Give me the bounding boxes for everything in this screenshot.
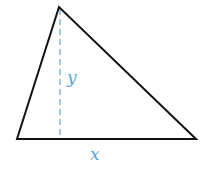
triangle-outline xyxy=(17,7,196,139)
height-label: y xyxy=(67,69,77,86)
base-label: x xyxy=(90,146,100,163)
triangle-diagram xyxy=(0,0,208,171)
